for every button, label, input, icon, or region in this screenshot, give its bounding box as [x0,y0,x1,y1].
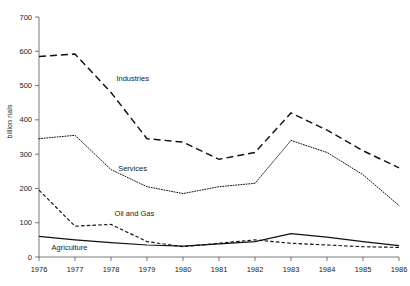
y-tick-label: 300 [19,150,32,159]
y-axis-title: billion rials [6,87,13,157]
x-tick-label: 1982 [247,265,264,274]
y-tick-label: 600 [19,47,32,56]
x-tick-label: 1977 [67,265,84,274]
chart-container: 0100200300400500600700197619771978197919… [0,0,410,286]
x-tick-label: 1983 [283,265,300,274]
y-tick-label: 0 [28,253,32,262]
y-tick-label: 400 [19,115,32,124]
series-annotation-industries: Industries [116,74,149,83]
series-annotation-agriculture: Agriculture [52,243,88,252]
x-tick-label: 1980 [175,265,192,274]
y-tick-label: 700 [19,13,32,22]
y-tick-label: 500 [19,81,32,90]
line-chart-plot: 0100200300400500600700197619771978197919… [0,0,410,286]
x-tick-label: 1981 [211,265,228,274]
series-annotation-services: Services [118,164,147,173]
series-line-agriculture [39,234,399,246]
x-tick-label: 1976 [31,265,48,274]
x-tick-label: 1979 [139,265,156,274]
x-tick-label: 1978 [103,265,120,274]
series-line-services [39,135,399,205]
x-tick-label: 1984 [319,265,336,274]
x-tick-label: 1985 [355,265,372,274]
series-line-industries [39,54,399,168]
y-tick-label: 100 [19,218,32,227]
y-tick-label: 200 [19,184,32,193]
x-tick-label: 1986 [391,265,408,274]
series-annotation-oil-and-gas: Oil and Gas [115,209,155,218]
